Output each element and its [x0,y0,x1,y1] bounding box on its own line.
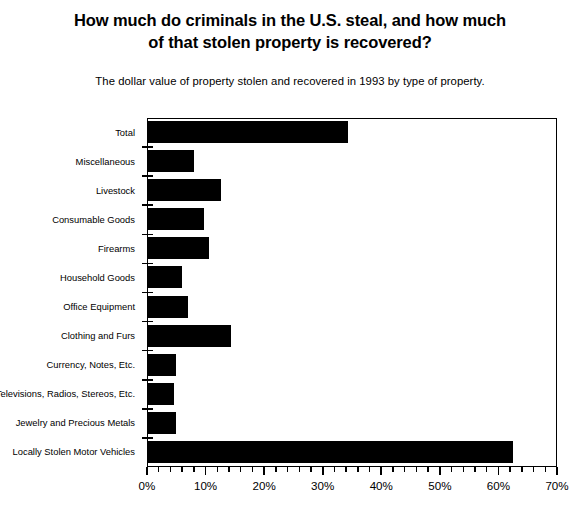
bar-row [147,293,557,322]
bar [147,296,188,318]
y-axis-tick [142,379,153,381]
y-axis-label: Consumable Goods [52,214,135,225]
bar [147,266,182,288]
x-axis-tick-label: 30% [311,479,334,492]
y-axis-label: Televisions, Radios, Stereos, Etc. [0,388,135,399]
y-axis-label: Clothing and Furs [61,330,135,341]
x-axis-minor-tick [533,467,534,472]
y-axis-label: Miscellaneous [76,156,135,167]
y-axis-tick [142,263,153,265]
x-axis-major-tick [146,467,148,475]
bar-row [147,205,557,234]
bar-row [147,118,557,147]
x-axis-minor-tick [545,467,546,472]
y-axis-label: Jewelry and Precious Metals [16,417,135,428]
bar-row [147,147,557,176]
y-axis-label: Household Goods [60,272,135,283]
chart-title: How much do criminals in the U.S. steal,… [36,10,544,54]
bar [147,121,348,143]
x-axis-minor-tick [486,467,487,472]
y-axis-tick [142,234,153,236]
x-axis-minor-tick [404,467,405,472]
y-axis-tick [142,204,153,206]
x-axis-tick-label: 70% [545,479,568,492]
x-axis-tick-label: 0% [139,479,156,492]
bar [147,150,194,172]
x-axis-major-tick [556,467,558,475]
x-axis-minor-tick [170,467,171,472]
x-axis-minor-tick [310,467,311,472]
y-axis-label: Currency, Notes, Etc. [47,359,135,370]
y-axis-tick [142,175,153,177]
x-axis-minor-tick [369,467,370,472]
x-axis-major-tick [322,467,324,475]
bar-row [147,409,557,438]
x-axis-minor-tick [217,467,218,472]
x-axis-minor-tick [299,467,300,472]
bar [147,325,231,347]
bar [147,179,221,201]
x-axis-minor-tick [474,467,475,472]
bar [147,441,513,463]
chart-container: How much do criminals in the U.S. steal,… [0,0,580,509]
y-axis-label: Office Equipment [63,301,135,312]
x-axis-minor-tick [345,467,346,472]
x-axis-tick-label: 10% [194,479,217,492]
bar [147,354,176,376]
x-axis-minor-tick [427,467,428,472]
chart-header: How much do criminals in the U.S. steal,… [0,0,580,87]
y-axis-tick [142,437,153,439]
x-axis-major-tick [380,467,382,475]
x-axis-minor-tick [240,467,241,472]
chart-subtitle: The dollar value of property stolen and … [0,75,580,87]
x-axis-tick-label: 20% [253,479,276,492]
x-axis-minor-tick [193,467,194,472]
bar-row [147,176,557,205]
x-axis-minor-tick [463,467,464,472]
x-axis-minor-tick [334,467,335,472]
bar-row [147,351,557,380]
x-axis-minor-tick [509,467,510,472]
x-axis-minor-tick [416,467,417,472]
x-axis-major-tick [439,467,441,475]
x-axis-major-tick [498,467,500,475]
x-axis-minor-tick [521,467,522,472]
y-axis-label: Total [115,127,135,138]
x-axis-major-tick [263,467,265,475]
bars-layer [147,118,557,467]
bar-row [147,322,557,351]
y-axis-label: Livestock [96,185,135,196]
x-axis-tick-label: 40% [370,479,393,492]
x-axis-minor-tick [252,467,253,472]
bar [147,412,176,434]
bar-row [147,438,557,467]
bar [147,383,174,405]
x-axis: 0%10%20%30%40%50%60%70% [0,467,580,509]
bar [147,208,204,230]
y-axis-label: Firearms [98,243,135,254]
bar [147,237,209,259]
bar-row [147,263,557,292]
x-axis-minor-tick [287,467,288,472]
x-axis-minor-tick [158,467,159,472]
y-axis-tick [142,350,153,352]
x-axis-minor-tick [392,467,393,472]
x-axis-minor-tick [181,467,182,472]
y-axis-tick [142,146,153,148]
x-axis-major-tick [205,467,207,475]
chart-title-line-1: How much do criminals in the U.S. steal,… [74,11,506,29]
x-axis-minor-tick [275,467,276,472]
y-axis-label: Locally Stolen Motor Vehicles [13,446,135,457]
y-axis-tick [142,292,153,294]
y-axis-labels: TotalMiscellaneousLivestockConsumable Go… [0,118,143,467]
chart-title-line-2: of that stolen property is recovered? [148,33,431,51]
x-axis-minor-tick [357,467,358,472]
x-axis-tick-label: 50% [428,479,451,492]
bar-row [147,380,557,409]
bar-row [147,234,557,263]
y-axis-tick [142,408,153,410]
x-axis-tick-label: 60% [487,479,510,492]
x-axis-minor-tick [451,467,452,472]
y-axis-tick [142,321,153,323]
x-axis-minor-tick [228,467,229,472]
